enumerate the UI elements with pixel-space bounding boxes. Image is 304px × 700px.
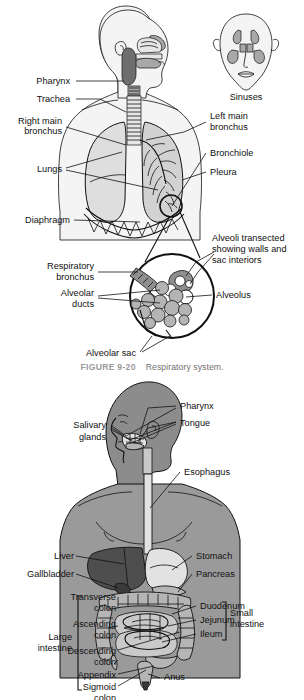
label-alveoli-transected-l1: Alveoli transected [212,233,285,243]
label-left-main-bronchus-l2: bronchus [210,122,248,132]
label-large-intestine-l2: intestine [38,643,72,653]
label-transverse-colon-l1: Transverse [70,592,116,602]
trachea-structure [127,96,141,145]
label-trachea: Trachea [37,94,71,104]
label-sigmoid-colon-l2: colon [94,693,116,700]
label-alveolus: Alveolus [216,290,251,300]
label-salivary-glands-l1: Salivary [73,420,106,430]
label-gallbladder: Gallbladder [27,569,74,579]
label-lungs: Lungs [37,164,62,174]
label-tongue: Tongue [180,418,210,428]
label-sigmoid-colon-l1: Sigmoid [83,682,116,692]
label-liver: Liver [54,551,74,561]
label-stomach: Stomach [196,551,232,561]
label-digestive-pharynx: Pharynx [180,401,214,411]
label-ascending-colon-l1: Ascending [73,619,116,629]
label-appendix: Appendix [78,670,117,680]
esophagus [144,474,152,554]
sinuses-face [213,14,278,90]
figure-respiratory-system: .ln{fill:none;stroke:#111;stroke-width:.… [0,0,304,378]
head-profile [100,10,168,98]
label-transverse-colon-l2: colon [94,603,116,613]
figure-digestive-system: .dln{fill:none;stroke:#111;stroke-width:… [0,378,304,700]
label-ascending-colon-l2: colon [94,630,116,640]
label-ileum: Ileum [200,629,223,639]
label-alveolar-sac: Alveolar sac [86,348,136,358]
label-large-intestine-l1: Large [49,632,73,642]
label-alveolar-ducts-l1: Alveolar [61,288,94,298]
label-respiratory-bronchus-l2: bronchus [56,272,94,282]
label-respiratory-bronchus-l1: Respiratory [47,261,94,271]
caption-text-respiratory: Respiratory system. [146,362,224,372]
caption-respiratory: FIGURE 9-20 Respiratory system. [0,362,304,372]
label-right-main-bronchus-l2: bronchus [24,126,62,136]
figure-page: .ln{fill:none;stroke:#111;stroke-width:.… [0,0,304,700]
label-diaphragm: Diaphragm [25,215,70,225]
label-bronchiole: Bronchiole [210,148,253,158]
label-right-main-bronchus-l1: Right main [18,116,62,126]
label-alveoli-transected-l2: showing walls and [212,244,287,254]
small-intestine [115,612,178,658]
label-sinuses: Sinuses [230,92,263,102]
label-salivary-glands-l2: glands [79,432,106,442]
caption-number-respiratory: FIGURE 9-20 [80,362,135,372]
label-alveoli-transected-l3: sac interiors [212,255,262,265]
label-alveolar-ducts-l2: ducts [72,299,94,309]
label-left-main-bronchus-l1: Left main [210,111,248,121]
label-pancreas: Pancreas [196,569,235,579]
label-pleura: Pleura [210,167,237,177]
label-anus: Anus [164,672,185,682]
label-descending-colon-l2: colon [94,657,116,667]
label-small-intestine-l1: Small [230,608,253,618]
label-esophagus: Esophagus [184,467,230,477]
label-small-intestine-l2: intestine [230,619,264,629]
label-pharynx: Pharynx [36,76,70,86]
label-descending-colon-l1: Descending [67,646,116,656]
